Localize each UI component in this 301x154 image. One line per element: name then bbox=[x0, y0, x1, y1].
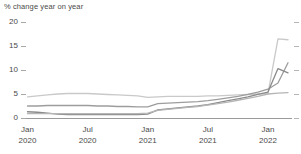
x-axis-tick-year: 2021 bbox=[126, 135, 170, 146]
x-axis-tick-year: 2021 bbox=[186, 135, 230, 146]
x-axis-tick-year: 2022 bbox=[246, 135, 290, 146]
x-axis-tick-month: Jan bbox=[6, 124, 50, 135]
x-axis-tick-label: Jan2021 bbox=[126, 124, 170, 146]
chart-line-series-1 bbox=[28, 39, 289, 98]
chart-line-series-2 bbox=[28, 63, 289, 107]
x-axis-tick-label: Jan2020 bbox=[6, 124, 50, 146]
chart-container: % change year on year 05101520 Jan2020Ju… bbox=[0, 0, 301, 154]
x-axis-tick-label: Jul2020 bbox=[66, 124, 110, 146]
x-axis-tick-year: 2020 bbox=[6, 135, 50, 146]
x-axis-tick-month: Jan bbox=[246, 124, 290, 135]
x-axis-tick-year: 2020 bbox=[66, 135, 110, 146]
x-axis-tick-label: Jan2022 bbox=[246, 124, 290, 146]
x-axis-tick-month: Jul bbox=[66, 124, 110, 135]
x-axis-tick-month: Jul bbox=[186, 124, 230, 135]
chart-line-series-3 bbox=[28, 69, 289, 115]
x-axis-baseline bbox=[26, 118, 292, 119]
x-axis-tick-month: Jan bbox=[126, 124, 170, 135]
x-axis-tick-label: Jul2021 bbox=[186, 124, 230, 146]
